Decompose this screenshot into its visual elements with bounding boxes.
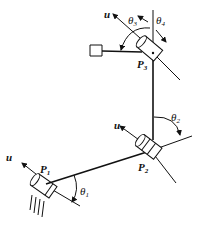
angle-label-theta1: θ1	[80, 185, 89, 199]
angle-arrow-theta4-a	[138, 16, 148, 22]
angle-label-theta3: θ3	[128, 14, 137, 28]
cylinder-p1	[29, 172, 58, 198]
axis-label-u1: u	[6, 151, 12, 163]
joint-label-p1: P1	[40, 163, 50, 177]
joint-label-p2: P2	[138, 161, 149, 175]
angle-label-theta2: θ2	[171, 111, 180, 125]
angle-label-theta4: θ4	[156, 14, 165, 28]
link-p3-gripper	[102, 51, 142, 52]
axis-label-u2: u	[114, 119, 120, 131]
angle-arc-theta1	[72, 175, 77, 202]
joint-p2	[120, 117, 180, 183]
axis-line-p3	[156, 56, 180, 80]
gripper	[90, 45, 102, 56]
joint-label-p3: P3	[137, 58, 148, 72]
axis-label-u3: u	[104, 8, 110, 20]
angle-arrow-theta4-b	[156, 30, 166, 42]
ground-hatch	[30, 195, 44, 217]
robot-arm-diagram: u P1 θ1 u P2 θ2 u P3 θ3 θ4	[0, 0, 202, 225]
link-p1-p2	[46, 151, 150, 184]
joint-p1	[22, 163, 80, 217]
